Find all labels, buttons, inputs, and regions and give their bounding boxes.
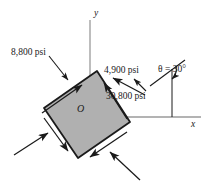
leader-shear-left [49,56,68,80]
stress-element-figure: 8,800 psi 4,900 psi 30,800 psi θ = 30° O… [0,0,219,187]
label-angle: θ = 30° [158,65,186,75]
stress-element-square [44,71,130,158]
label-axis-x: x [191,120,195,130]
label-normal-top: 30,800 psi [106,92,146,102]
label-shear-left: 8,800 psi [11,48,46,58]
label-origin: O [77,104,84,114]
normal-arrow-lower-left [14,133,48,155]
normal-arrow-lower-right [110,152,140,180]
label-shear-top: 4,900 psi [104,66,139,76]
label-axis-y: y [94,9,98,19]
leader-normal-top [134,79,146,91]
